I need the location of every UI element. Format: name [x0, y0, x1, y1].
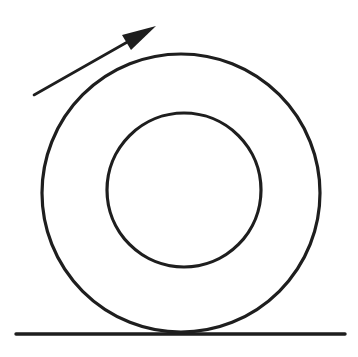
inner-hub-circle	[107, 113, 261, 267]
outer-wheel-circle	[42, 54, 320, 332]
wheel-group	[42, 54, 320, 332]
arrow-shaft	[34, 43, 127, 96]
arrow-head-icon	[122, 26, 156, 50]
wheel-diagram	[0, 0, 358, 357]
